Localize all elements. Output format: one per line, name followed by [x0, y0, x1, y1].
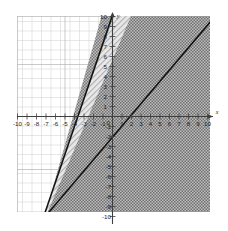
x-tick-label: -3: [81, 120, 87, 127]
y-tick-label: 10: [100, 13, 107, 20]
x-tick-label: -8: [34, 120, 40, 127]
y-tick-label: -5: [105, 163, 111, 170]
y-tick-label: -10: [102, 213, 112, 220]
y-tick-label: 5: [104, 63, 108, 70]
x-tick-label: 9: [196, 120, 200, 127]
y-tick-label: -9: [105, 203, 111, 210]
x-tick-label: -4: [72, 120, 78, 127]
x-tick-label: -2: [91, 120, 97, 127]
y-tick-label: 8: [104, 33, 108, 40]
x-tick-label: -6: [53, 120, 59, 127]
y-tick-label: 4: [104, 73, 108, 80]
y-tick-label: 3: [104, 83, 108, 90]
coordinate-graph: -10 -9 -8 -7 -6 -5 -4 -3 -2 -1 1 2 3 4 5…: [0, 0, 228, 231]
x-tick-label: -9: [24, 120, 30, 127]
y-tick-label: -8: [105, 193, 111, 200]
y-tick-label: 1: [104, 103, 108, 110]
plot-area: -10 -9 -8 -7 -6 -5 -4 -3 -2 -1 1 2 3 4 5…: [0, 0, 228, 231]
x-tick-label: 2: [130, 120, 134, 127]
x-tick-label: 7: [177, 120, 181, 127]
y-axis-label: y: [116, 13, 120, 19]
y-tick-label: -2: [105, 133, 111, 140]
x-tick-label: 6: [168, 120, 172, 127]
x-tick-label: -5: [62, 120, 68, 127]
y-tick-label: -3: [105, 143, 111, 150]
x-tick-label: -7: [43, 120, 49, 127]
x-tick-label: 8: [187, 120, 191, 127]
y-tick-label: 2: [104, 93, 108, 100]
y-tick-label: 6: [104, 53, 108, 60]
x-tick-label: 3: [139, 120, 143, 127]
y-tick-label: -6: [105, 173, 111, 180]
origin-label: 0: [107, 119, 111, 126]
x-tick-label: -10: [13, 120, 23, 127]
y-tick-label: -4: [105, 153, 111, 160]
y-tick-label: 9: [104, 23, 108, 30]
x-tick-label: 4: [149, 120, 153, 127]
x-tick-label: 5: [158, 120, 162, 127]
y-tick-label: -7: [105, 183, 111, 190]
x-axis-label: x: [215, 109, 219, 115]
x-tick-label: 10: [204, 120, 211, 127]
y-tick-label: 7: [104, 43, 108, 50]
x-tick-label: 1: [120, 120, 124, 127]
